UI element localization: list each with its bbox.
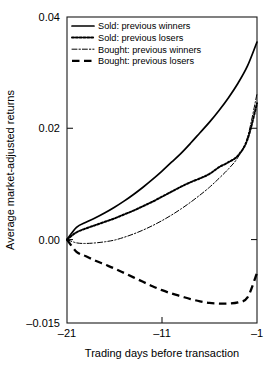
legend-label-0: Sold: previous winners <box>98 21 191 31</box>
y-tick-label: 0.02 <box>39 122 60 134</box>
x-axis-tick-labels: –21–11–1 <box>58 327 263 339</box>
y-tick-label: –0.015 <box>26 317 60 329</box>
x-axis-label: Trading days before transaction <box>85 347 239 359</box>
legend-label-3: Bought: previous losers <box>98 56 194 66</box>
series-line-2 <box>67 94 257 244</box>
y-axis-label: Average market-adjusted returns <box>4 90 16 250</box>
x-tick-label: –11 <box>153 327 171 339</box>
data-series-group <box>67 42 257 304</box>
y-tick-label: 0.00 <box>39 234 60 246</box>
series-line-0 <box>67 42 257 240</box>
y-axis-ticks-right <box>251 128 257 239</box>
legend-label-2: Bought: previous winners <box>98 45 202 55</box>
x-tick-label: –1 <box>251 327 263 339</box>
y-tick-label: 0.04 <box>39 11 60 23</box>
series-line-3 <box>67 240 257 304</box>
y-axis-ticks <box>67 128 73 239</box>
legend-label-1: Sold: previous losers <box>98 33 184 43</box>
y-axis-tick-labels: 0.040.020.00–0.015 <box>26 11 60 329</box>
chart-svg: 0.040.020.00–0.015 –21–11–1 Trading days… <box>0 0 276 366</box>
x-tick-label: –21 <box>58 327 76 339</box>
chart-legend: Sold: previous winnersSold: previous los… <box>72 21 202 66</box>
figure-chart: 0.040.020.00–0.015 –21–11–1 Trading days… <box>0 0 276 366</box>
